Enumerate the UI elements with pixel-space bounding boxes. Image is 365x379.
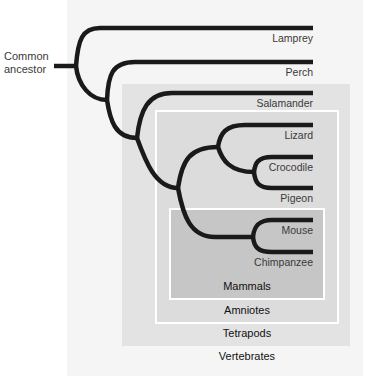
taxon-label-chimpanzee: Chimpanzee — [193, 256, 313, 268]
root-label-line2: ancestor — [4, 63, 49, 76]
common-ancestor-label: Common ancestor — [4, 50, 49, 76]
taxon-label-lamprey: Lamprey — [193, 32, 313, 44]
tree-branches — [0, 0, 365, 379]
group-label-tetrapods: Tetrapods — [167, 327, 327, 339]
group-label-mammals: Mammals — [167, 280, 327, 292]
taxon-label-lizard: Lizard — [193, 129, 313, 141]
taxon-label-perch: Perch — [193, 66, 313, 78]
taxon-label-mouse: Mouse — [193, 224, 313, 236]
taxon-label-pigeon: Pigeon — [193, 192, 313, 204]
taxon-label-crocodile: Crocodile — [193, 161, 313, 173]
root-label-line1: Common — [4, 50, 49, 63]
group-label-vertebrates: Vertebrates — [167, 350, 327, 362]
group-label-amniotes: Amniotes — [167, 304, 327, 316]
taxon-label-salamander: Salamander — [193, 97, 313, 109]
